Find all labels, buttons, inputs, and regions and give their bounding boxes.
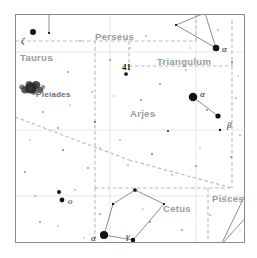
star-marker — [143, 209, 144, 210]
star-marker — [127, 164, 128, 165]
star-marker — [39, 221, 40, 222]
star-marker — [124, 72, 128, 76]
star-marker — [155, 115, 156, 116]
star-marker — [206, 109, 207, 110]
star-marker — [140, 99, 141, 100]
star-marker — [114, 96, 115, 97]
star-marker — [70, 105, 71, 106]
star-marker — [94, 121, 96, 123]
star-marker — [99, 213, 100, 214]
star-marker — [87, 167, 88, 168]
star-marker — [163, 203, 165, 205]
star-marker — [219, 129, 221, 131]
star-marker — [230, 156, 231, 157]
star-label-41-arietis: 41 — [122, 62, 131, 72]
star-marker — [133, 188, 137, 192]
star-marker — [151, 153, 153, 155]
star-marker — [200, 148, 201, 149]
star-marker — [235, 97, 236, 98]
star-marker — [190, 48, 191, 49]
star-marker — [30, 29, 36, 35]
star-marker — [57, 190, 61, 194]
star-marker — [34, 195, 35, 196]
star-marker — [189, 93, 198, 102]
star-marker — [195, 165, 196, 166]
star-marker — [171, 174, 172, 175]
star-marker — [175, 24, 177, 26]
star-marker — [245, 189, 249, 193]
star-marker — [240, 230, 241, 231]
star-marker — [48, 32, 50, 34]
star-marker — [238, 76, 239, 77]
star-marker — [20, 88, 21, 89]
star-marker — [84, 238, 85, 239]
star-marker — [163, 63, 164, 64]
star-marker — [24, 171, 25, 172]
star-marker — [159, 83, 160, 84]
star-marker — [30, 140, 31, 141]
star-marker — [67, 71, 68, 72]
star-marker — [42, 111, 43, 112]
star-marker — [100, 231, 108, 239]
star-marker — [109, 59, 110, 60]
star-marker — [181, 229, 182, 230]
star-marker — [58, 226, 59, 227]
star-marker — [60, 198, 65, 203]
star-marker — [209, 214, 210, 215]
star-marker — [185, 69, 186, 70]
star-marker — [74, 189, 75, 190]
star-marker — [239, 134, 240, 135]
star-marker — [119, 139, 120, 140]
star-marker — [131, 238, 135, 242]
star-marker — [112, 203, 114, 205]
star-marker — [149, 221, 150, 222]
star-marker — [213, 45, 219, 51]
star-marker — [145, 35, 146, 36]
star-marker — [100, 148, 101, 149]
star-marker — [91, 91, 92, 92]
star-marker — [167, 130, 169, 132]
star-marker — [62, 149, 64, 151]
star-marker — [51, 59, 52, 60]
star-marker — [130, 48, 131, 49]
star-chart: PerseusTaurusTriangulumArjesCetusPiscesP… — [0, 0, 257, 258]
star-marker — [231, 61, 233, 63]
star-marker — [217, 29, 218, 30]
star-marker — [226, 196, 227, 197]
star-marker — [215, 113, 220, 118]
star-marker — [57, 127, 58, 128]
star-marker — [79, 40, 80, 41]
star-marker — [219, 243, 223, 247]
sky-canvas — [0, 0, 257, 258]
